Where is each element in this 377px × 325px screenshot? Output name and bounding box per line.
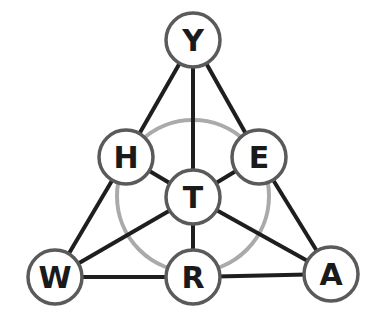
node-label: W: [38, 260, 71, 295]
node-label: E: [249, 140, 270, 175]
node-label: A: [319, 257, 343, 292]
node-h: H: [99, 130, 153, 184]
node-w: W: [28, 250, 82, 304]
node-t: T: [166, 170, 220, 224]
node-label: Y: [181, 23, 205, 58]
node-a: A: [304, 247, 358, 301]
node-label: H: [113, 140, 138, 175]
edges: [55, 40, 331, 277]
node-label: R: [181, 260, 204, 295]
node-e: E: [232, 130, 286, 184]
letter-graph-diagram: YHETWRA: [0, 0, 377, 325]
node-label: T: [183, 180, 204, 215]
node-y: Y: [166, 13, 220, 67]
node-r: R: [166, 250, 220, 304]
